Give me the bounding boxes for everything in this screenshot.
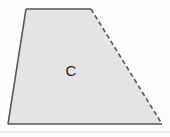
shape-label-c: C <box>66 62 77 79</box>
shape-diagram-svg: C <box>0 0 170 137</box>
trapezoid-shape-c[interactable] <box>8 9 162 124</box>
figure-canvas: C <box>0 0 170 137</box>
